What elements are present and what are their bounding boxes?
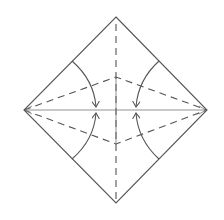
origami-diagram bbox=[0, 0, 224, 220]
upper-left-fold-arrow-icon bbox=[72, 61, 96, 107]
upper-right-fold-arrow-icon bbox=[136, 61, 159, 107]
lower-right-fold-arrow-icon bbox=[136, 113, 159, 159]
lower-left-fold-arrow-icon bbox=[72, 113, 96, 159]
